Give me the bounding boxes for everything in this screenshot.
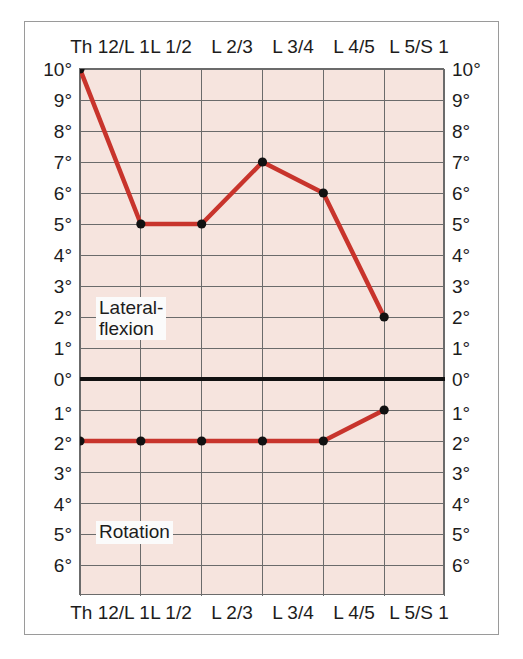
- ytick-left-neg6: 6°: [24, 556, 72, 575]
- xtick-top-5: L 5/S 1: [373, 37, 465, 56]
- ytick-left-neg4: 4°: [24, 495, 72, 514]
- ytick-right-2: 2°: [452, 308, 500, 327]
- ytick-left-7: 7°: [24, 153, 72, 172]
- ytick-left-4: 4°: [24, 246, 72, 265]
- ytick-left-5: 5°: [24, 215, 72, 234]
- ytick-right-neg4: 4°: [452, 495, 500, 514]
- ytick-right-10: 10°: [452, 60, 500, 79]
- ytick-left-0: 0°: [24, 370, 72, 389]
- ytick-left-neg1: 1°: [24, 404, 72, 423]
- ytick-left-neg5: 5°: [24, 525, 72, 544]
- ytick-right-9: 9°: [452, 91, 500, 110]
- ytick-right-0: 0°: [452, 370, 500, 389]
- ytick-left-1: 1°: [24, 339, 72, 358]
- ytick-right-7: 7°: [452, 153, 500, 172]
- ytick-left-8: 8°: [24, 122, 72, 141]
- ytick-right-3: 3°: [452, 277, 500, 296]
- ytick-right-neg2: 2°: [452, 434, 500, 453]
- ytick-right-neg6: 6°: [452, 556, 500, 575]
- ytick-left-10: 10°: [24, 60, 72, 79]
- plot-area: Lateral- flexion Rotation: [79, 68, 444, 595]
- series-label-rotation: Rotation: [96, 521, 173, 544]
- ytick-left-neg3: 3°: [24, 464, 72, 483]
- ytick-right-neg3: 3°: [452, 464, 500, 483]
- ytick-right-8: 8°: [452, 122, 500, 141]
- ytick-left-9: 9°: [24, 91, 72, 110]
- ytick-right-neg5: 5°: [452, 525, 500, 544]
- ytick-left-6: 6°: [24, 184, 72, 203]
- ytick-right-6: 6°: [452, 184, 500, 203]
- series-label-lateral-flexion: Lateral- flexion: [96, 297, 166, 340]
- ytick-right-5: 5°: [452, 215, 500, 234]
- ytick-left-3: 3°: [24, 277, 72, 296]
- ytick-left-neg2: 2°: [24, 434, 72, 453]
- ytick-right-1: 1°: [452, 339, 500, 358]
- ytick-left-2: 2°: [24, 308, 72, 327]
- ytick-right-neg1: 1°: [452, 404, 500, 423]
- ytick-right-4: 4°: [452, 246, 500, 265]
- series-lines: [80, 69, 389, 446]
- xtick-bottom-5: L 5/S 1: [373, 603, 465, 622]
- chart-figure: Th 12/L 1 L 1/2 L 2/3 L 3/4 L 4/5 L 5/S …: [0, 0, 523, 659]
